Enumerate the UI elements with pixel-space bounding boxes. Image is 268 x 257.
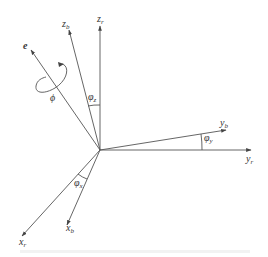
label-e: e: [23, 41, 27, 51]
angle-arc-phi-z: [88, 105, 100, 106]
label-y-b: yb: [220, 118, 228, 130]
axis-x-r: [22, 150, 100, 236]
label-phi-y: φy: [204, 133, 213, 145]
label-rotation-phi: ϕ: [50, 93, 55, 103]
axis-x-b: [67, 150, 100, 225]
label-z-r: zr: [97, 14, 104, 26]
coordinate-frame-diagram: zr zb e yb yr xr xb φz φy φx ϕ: [0, 0, 268, 257]
label-x-b: xb: [66, 223, 74, 235]
angle-arc-phi-y: [201, 134, 202, 150]
label-x-r: xr: [19, 237, 26, 249]
rotation-arrowhead-icon: [58, 62, 64, 67]
label-phi-z: φz: [88, 92, 96, 104]
label-phi-x: φx: [74, 178, 83, 190]
label-z-b: zb: [62, 19, 69, 31]
axis-z-b: [69, 30, 100, 150]
label-y-r: yr: [246, 154, 253, 166]
figure-caption: [20, 250, 250, 253]
rotation-arrow-icon: [36, 64, 67, 92]
